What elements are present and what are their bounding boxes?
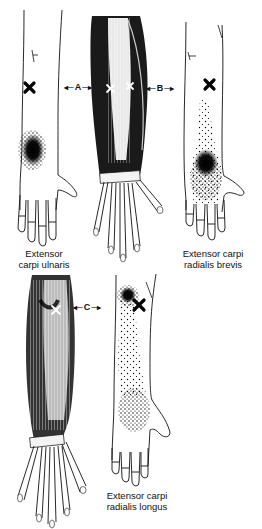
- anatomy-bottom-arm: [18, 275, 87, 528]
- connector-label: A: [75, 82, 82, 92]
- connector-a: ◂─ A ─▸: [64, 82, 92, 92]
- trigger-point-x-icon: [205, 80, 214, 89]
- connector-c: ◂─ C ─▸: [73, 302, 101, 312]
- caption-line: carpi ulnaris: [8, 259, 80, 270]
- arrow-left-icon: ◂─: [73, 303, 83, 312]
- caption-ecrb: Extensor carpi radialis brevis: [168, 248, 258, 270]
- connector-b: ◂─ B ─▸: [146, 83, 174, 93]
- anatomy-top-arm: [91, 16, 164, 262]
- ecrb-arm: [184, 22, 244, 240]
- trigger-point-x-icon: [25, 83, 34, 92]
- caption-line: Extensor carpi: [92, 490, 182, 501]
- arrow-left-icon: ◂─: [64, 83, 74, 92]
- arrow-right-icon: ─▸: [91, 303, 101, 312]
- caption-line: radialis longus: [92, 501, 182, 512]
- arrow-right-icon: ─▸: [164, 84, 174, 93]
- caption-ecu: Extensor carpi ulnaris: [8, 248, 80, 270]
- arrow-left-icon: ◂─: [146, 84, 156, 93]
- caption-line: Extensor: [8, 248, 80, 259]
- ecrl-arm: [112, 274, 170, 486]
- caption-line: Extensor carpi: [168, 248, 258, 259]
- ecu-arm: [18, 10, 77, 246]
- connector-label: B: [157, 83, 164, 93]
- connector-label: C: [84, 302, 91, 312]
- arrow-right-icon: ─▸: [82, 83, 92, 92]
- caption-ecrl: Extensor carpi radialis longus: [92, 490, 182, 512]
- trigger-point-x-icon: [134, 300, 144, 310]
- caption-line: radialis brevis: [168, 259, 258, 270]
